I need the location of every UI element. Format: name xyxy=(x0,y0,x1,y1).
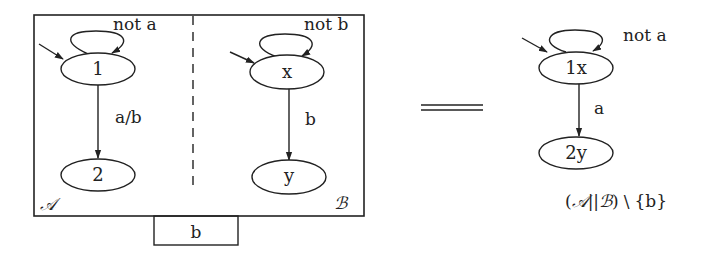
caption-setminus: \ xyxy=(624,191,630,211)
state-label: 1x xyxy=(565,57,587,78)
port-b: b xyxy=(154,216,238,245)
initial-arrow-x xyxy=(230,52,254,63)
self-loop-label-b: not b xyxy=(304,14,348,34)
caption-parallel: || xyxy=(588,191,599,211)
caption-close-paren: ) xyxy=(612,191,619,211)
automaton-b: not b x b y ℬ xyxy=(230,14,349,213)
port-label: b xyxy=(191,222,202,242)
caption-hidden-set: {b} xyxy=(634,191,667,211)
self-loop-1 xyxy=(71,31,124,54)
automaton-a-name: 𝒜 xyxy=(40,194,61,214)
state-label: 1 xyxy=(92,58,103,79)
transition-label-a: a/b xyxy=(115,107,142,127)
transition-label-b: b xyxy=(305,109,316,129)
transition-label: a xyxy=(594,98,604,118)
self-loop-x xyxy=(260,34,313,57)
initial-arrow-1x xyxy=(522,38,547,52)
composition-caption: (𝒜||ℬ)\{b} xyxy=(565,191,667,211)
state-label: 2y xyxy=(565,142,587,163)
equals-icon xyxy=(421,105,483,110)
composed-automaton: not a 1x a 2y (𝒜||ℬ)\{b} xyxy=(522,25,667,211)
caption-open-paren: ( xyxy=(565,191,572,211)
self-loop-label: not a xyxy=(623,25,667,45)
state-label: 2 xyxy=(92,164,103,185)
self-loop-1x xyxy=(549,30,602,52)
composition-diagram: b not a 1 a/b 2 𝒜 not b x b y ℬ xyxy=(0,0,723,256)
automaton-a: not a 1 a/b 2 𝒜 xyxy=(39,14,157,214)
composition-box: b not a 1 a/b 2 𝒜 not b x b y ℬ xyxy=(34,14,364,245)
automaton-b-name: ℬ xyxy=(334,193,349,213)
state-label: x xyxy=(282,61,292,82)
self-loop-label-a: not a xyxy=(113,14,157,34)
initial-arrow-1 xyxy=(39,44,63,59)
state-label: y xyxy=(283,165,295,186)
